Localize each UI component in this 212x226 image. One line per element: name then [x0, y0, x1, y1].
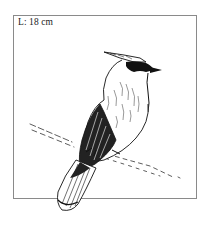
crest	[104, 52, 146, 62]
head	[103, 60, 122, 100]
size-label: L: 18 cm	[18, 17, 53, 27]
beak	[150, 67, 162, 73]
bird-illustration	[0, 0, 212, 226]
eye-mask	[126, 61, 154, 72]
